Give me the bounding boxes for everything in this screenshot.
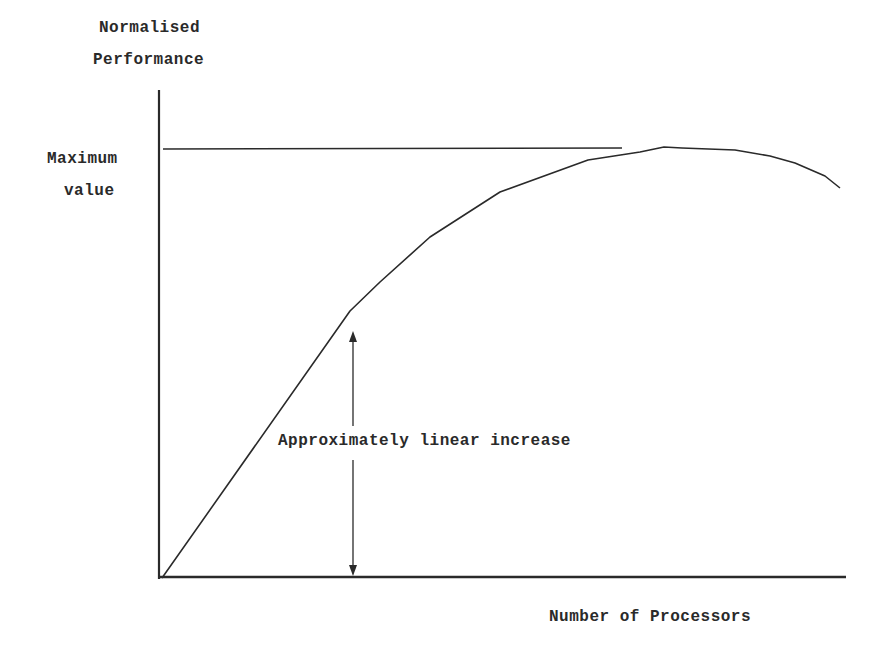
arrow-head-down-icon xyxy=(349,565,357,576)
chart-canvas xyxy=(0,0,891,645)
linear-increase-arrow xyxy=(349,331,357,576)
performance-curve xyxy=(162,147,840,578)
arrow-head-up-icon xyxy=(349,331,357,342)
x-axis-label: Number of Processors xyxy=(549,608,751,626)
maximum-value-line xyxy=(163,148,622,149)
annotation-linear-increase: Approximately linear increase xyxy=(278,432,571,450)
